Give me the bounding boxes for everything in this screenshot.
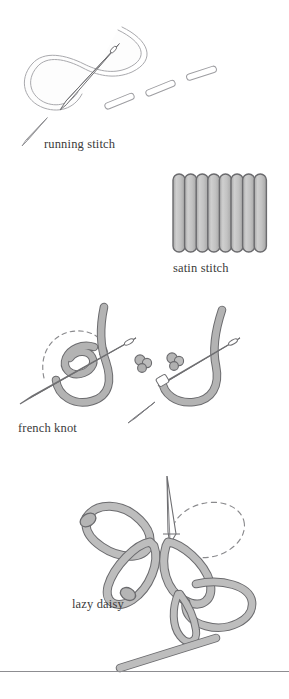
satin-bar (196, 174, 208, 252)
stitch-dash (186, 65, 217, 81)
caption-lazy-daisy: lazy daisy (72, 598, 124, 611)
satin-bar (243, 174, 255, 252)
running-stitch-illustration (0, 18, 289, 138)
satin-bar (208, 174, 220, 252)
figure-lazy-daisy (0, 462, 289, 662)
satin-bar (231, 174, 243, 252)
needle-upright (163, 476, 180, 544)
french-knot-illustration (0, 300, 289, 425)
figure-satin-stitch (0, 166, 289, 262)
satin-bar (219, 174, 231, 252)
stitch-dash (145, 79, 176, 97)
stitch-dash (104, 92, 135, 110)
caption-french-knot: french knot (18, 422, 77, 435)
completed-stitches (104, 65, 217, 110)
lazy-daisy-illustration (0, 462, 289, 662)
satin-bar (185, 174, 197, 252)
figure-running-stitch (0, 18, 289, 138)
needle-loose (128, 402, 155, 423)
satin-bar (173, 174, 185, 252)
stitch-diagram-page: running stitch (0, 0, 289, 699)
needle-pull-through (155, 338, 240, 388)
satin-bar (254, 174, 266, 252)
thread-tail (120, 638, 216, 668)
finished-knot (135, 355, 152, 373)
section-divider (0, 671, 289, 672)
figure-french-knot (0, 300, 289, 425)
caption-running-stitch: running stitch (44, 138, 115, 151)
finished-knot (167, 353, 184, 371)
petal-guide-outline (166, 495, 251, 565)
caption-satin-stitch: satin stitch (173, 262, 229, 275)
satin-stitch-illustration (0, 166, 289, 262)
satin-bar-group (173, 174, 266, 252)
petal-loop (164, 542, 211, 604)
